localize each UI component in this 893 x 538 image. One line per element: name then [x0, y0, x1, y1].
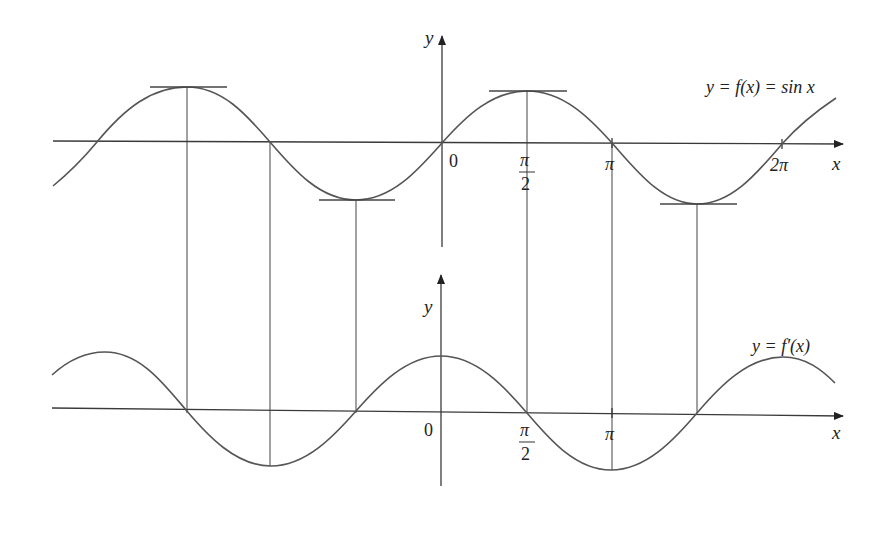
top-x-label: x [831, 153, 841, 174]
bottom-tick-label-pi-over-2: π 2 [519, 420, 535, 464]
svg-text:2: 2 [521, 444, 530, 464]
sine-derivative-diagram: y x 0 π 2 π 2π y = f(x) = sin x y x 0 π … [0, 0, 893, 538]
svg-text:π: π [520, 150, 530, 170]
cosine-curve [52, 352, 835, 470]
top-x-axis [53, 141, 843, 144]
bottom-y-label: y [422, 296, 433, 317]
bottom-x-axis [52, 408, 843, 416]
top-origin-label: 0 [449, 151, 458, 171]
svg-text:2: 2 [521, 174, 530, 194]
top-tick-label-pi: π [605, 154, 615, 174]
bottom-graph: y x 0 π 2 π y = f′(x) [52, 275, 843, 486]
top-graph: y x 0 π 2 π 2π y = f(x) = sin x [53, 27, 843, 247]
bottom-graph-title: y = f′(x) [750, 336, 810, 357]
top-tick-label-2pi: 2π [770, 155, 789, 175]
top-y-label: y [423, 27, 434, 48]
bottom-tick-label-pi: π [605, 424, 615, 444]
top-graph-title: y = f(x) = sin x [704, 77, 815, 98]
bottom-x-label: x [831, 422, 841, 443]
bottom-origin-label: 0 [424, 420, 433, 440]
sine-curve [53, 87, 836, 204]
top-tick-label-pi-over-2: π 2 [519, 150, 535, 194]
svg-text:π: π [520, 420, 530, 440]
